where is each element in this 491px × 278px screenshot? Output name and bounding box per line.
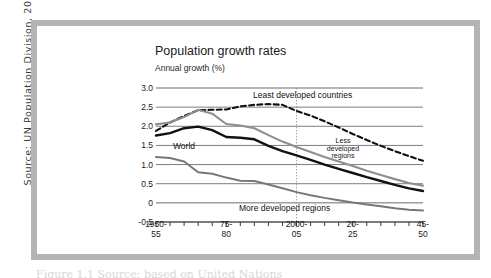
plot-area [129,84,429,236]
x-axis-labels: 1950-5575-802000-0520-2545-50 [129,219,429,249]
page-bottom-caption: Figure 1.1 Source: based on United Natio… [36,268,282,278]
x-axis-tick-label: 2000-05 [277,219,317,239]
x-tick-label-line1: 75- [206,219,246,229]
figure-root: Source: UN Population Division, 2003. Po… [0,0,491,278]
x-tick-label-line1: 45- [403,219,443,229]
plot-svg [129,84,429,236]
figure-frame: Population growth rates Annual growth (%… [31,20,480,260]
x-tick-label-line2: 25 [333,229,373,239]
series-line-world [156,127,423,191]
x-axis-tick-label: 20-25 [333,219,373,239]
annotation-more-developed-regions: More developed regions [239,204,330,213]
x-tick-label-line1: 2000- [277,219,317,229]
annotation-world: World [173,142,195,151]
annotation-least-developed-countries: Least developed countries [253,91,352,100]
x-axis-tick-label: 45-50 [403,219,443,239]
population-growth-chart: Population growth rates Annual growth (%… [129,44,429,249]
figure-canvas: Population growth rates Annual growth (%… [37,26,474,254]
x-tick-label-line2: 80 [206,229,246,239]
chart-title: Population growth rates [155,44,286,58]
x-tick-label-line2: 05 [277,229,317,239]
x-axis-tick-label: 75-80 [206,219,246,239]
x-axis-tick-label: 1950-55 [136,219,176,239]
x-tick-label-line2: 55 [136,229,176,239]
annotation-less-developed-regions: Less developed regions [325,137,361,160]
x-tick-label-line2: 50 [403,229,443,239]
chart-subtitle: Annual growth (%) [155,63,225,73]
x-tick-label-line1: 20- [333,219,373,229]
x-tick-label-line1: 1950- [136,219,176,229]
